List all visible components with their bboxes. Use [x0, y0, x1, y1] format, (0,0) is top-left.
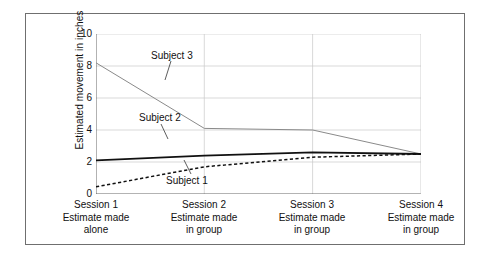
vertical-gridlines	[204, 34, 312, 194]
x-category-sub1: Estimate made	[356, 212, 486, 225]
y-axis-tick-labels: 10 8 6 4 2 0	[74, 34, 92, 194]
x-axis-category-labels: Session 1 Estimate made alone Session 2 …	[96, 199, 421, 245]
leader-line-subject-2	[161, 124, 168, 139]
x-category-session-4: Session 4 Estimate made in group	[356, 199, 486, 237]
y-tick-label: 0	[76, 189, 92, 199]
annotation-subject-1: Subject 1	[166, 175, 208, 186]
y-tick-label: 8	[76, 61, 92, 71]
annotation-subject-2: Subject 2	[139, 112, 181, 123]
chart-figure-border: Estimated movement in inches 10 8 6 4 2 …	[25, 13, 465, 245]
annotation-subject-3: Subject 3	[151, 50, 193, 61]
x-category-sub2: in group	[356, 224, 486, 237]
y-tick-label: 6	[76, 93, 92, 103]
y-tick-label: 4	[76, 125, 92, 135]
y-tick-label: 10	[76, 29, 92, 39]
series-line-subject-3	[96, 63, 421, 154]
leader-line-subject-3	[165, 61, 171, 80]
x-category-title: Session 4	[356, 199, 486, 212]
plot-area: Subject 3 Subject 2 Subject 1	[96, 34, 421, 194]
series-line-subject-2	[96, 152, 421, 160]
y-tick-label: 2	[76, 157, 92, 167]
